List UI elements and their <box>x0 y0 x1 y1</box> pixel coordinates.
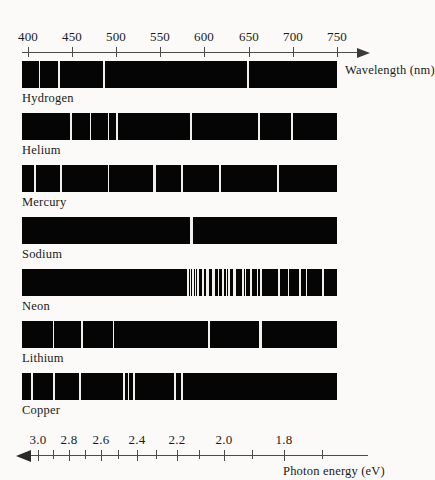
emission-line <box>277 165 279 192</box>
emission-line <box>53 373 55 400</box>
emission-line <box>190 217 193 244</box>
wavelength-tick-550 <box>160 47 161 57</box>
emission-line <box>81 321 83 348</box>
energy-minor-tick-2.3 <box>156 450 157 459</box>
emission-line <box>58 61 60 88</box>
emission-line <box>108 113 109 140</box>
emission-line <box>299 269 301 296</box>
emission-line <box>79 373 81 400</box>
emission-line <box>291 113 293 140</box>
spectrum-band-lithium <box>22 321 337 348</box>
spectrum-band-sodium <box>22 217 337 244</box>
emission-line <box>113 321 114 348</box>
wavelength-tick-label-600: 600 <box>194 30 214 43</box>
energy-minor-tick-2.7 <box>85 450 86 459</box>
wavelength-tick-750 <box>337 47 338 57</box>
emission-line <box>208 321 210 348</box>
spectrum-band-neon <box>22 269 337 296</box>
emission-line <box>60 165 62 192</box>
emission-line <box>258 113 260 140</box>
energy-minor-tick-2.5 <box>118 450 119 459</box>
energy-tick-label-2.4: 2.4 <box>129 433 146 446</box>
energy-tick-label-3.0: 3.0 <box>30 433 47 446</box>
emission-line <box>31 373 33 400</box>
emission-line <box>228 269 230 296</box>
emission-line <box>174 373 176 400</box>
spectrum-band-helium <box>22 113 337 140</box>
wavelength-axis-caption: Wavelength (nm) <box>345 63 435 78</box>
spectrum-label-mercury: Mercury <box>22 195 66 210</box>
energy-tick-2.6 <box>101 450 102 461</box>
emission-line <box>250 269 252 296</box>
emission-line <box>190 269 191 296</box>
spectrum-label-hydrogen: Hydrogen <box>22 91 74 106</box>
energy-tick-2.0 <box>224 450 225 461</box>
wavelength-tick-600 <box>204 47 205 57</box>
spectrum-band-mercury <box>22 165 337 192</box>
emission-line <box>247 61 249 88</box>
wavelength-tick-400 <box>28 47 29 57</box>
emission-line <box>128 373 129 400</box>
wavelength-tick-label-450: 450 <box>62 30 82 43</box>
spectrum-label-lithium: Lithium <box>22 351 64 366</box>
wavelength-tick-label-650: 650 <box>239 30 259 43</box>
emission-line <box>197 269 199 296</box>
emission-line <box>39 61 40 88</box>
emission-line <box>153 165 156 192</box>
emission-line <box>226 269 227 296</box>
wavelength-tick-label-550: 550 <box>150 30 170 43</box>
emission-line <box>133 373 135 400</box>
emission-line <box>195 269 196 296</box>
emission-line <box>116 113 118 140</box>
wavelength-tick-label-500: 500 <box>106 30 126 43</box>
energy-axis-arrowhead <box>16 450 31 462</box>
emission-line <box>218 269 219 296</box>
spectrum-label-copper: Copper <box>22 403 60 418</box>
wavelength-axis-arrowhead <box>357 48 370 58</box>
emission-line <box>202 269 204 296</box>
emission-line <box>222 269 224 296</box>
energy-minor-tick-1.9 <box>252 450 253 459</box>
emission-line <box>108 165 109 192</box>
emission-line <box>260 269 262 296</box>
emission-line <box>278 269 280 296</box>
wavelength-tick-500 <box>116 47 117 57</box>
wavelength-tick-label-750: 750 <box>327 30 347 43</box>
emission-line <box>213 269 215 296</box>
energy-minor-tick-2.9 <box>53 450 54 459</box>
spectrum-band-hydrogen <box>22 61 337 88</box>
emission-line <box>34 165 36 192</box>
emission-line <box>70 113 72 140</box>
emission-line <box>123 373 125 400</box>
wavelength-tick-450 <box>72 47 73 57</box>
emission-line <box>207 269 209 296</box>
emission-line <box>187 269 189 296</box>
emission-line <box>288 269 289 296</box>
emission-line <box>192 269 194 296</box>
emission-line <box>53 321 54 348</box>
energy-tick-3.0 <box>38 450 39 461</box>
emission-line <box>103 61 105 88</box>
wavelength-tick-label-400: 400 <box>18 30 38 43</box>
wavelength-tick-650 <box>249 47 250 57</box>
emission-line <box>257 269 258 296</box>
emission-line <box>245 269 246 296</box>
emission-line <box>306 269 307 296</box>
spectrum-label-sodium: Sodium <box>22 247 62 262</box>
spectrum-label-helium: Helium <box>22 143 61 158</box>
energy-minor-tick-1.7 <box>322 450 323 459</box>
energy-tick-2.4 <box>137 450 138 461</box>
energy-tick-label-1.8: 1.8 <box>276 433 293 446</box>
energy-tick-2.8 <box>69 450 70 461</box>
wavelength-tick-700 <box>293 47 294 57</box>
emission-line <box>242 269 244 296</box>
energy-tick-label-2.0: 2.0 <box>216 433 233 446</box>
energy-tick-label-2.8: 2.8 <box>61 433 78 446</box>
spectrum-band-copper <box>22 373 337 400</box>
energy-minor-tick-2.1 <box>199 450 200 459</box>
emission-line <box>234 269 236 296</box>
emission-line <box>190 113 192 140</box>
wavelength-tick-label-700: 700 <box>283 30 303 43</box>
emission-line <box>181 373 183 400</box>
energy-tick-1.8 <box>284 450 285 461</box>
